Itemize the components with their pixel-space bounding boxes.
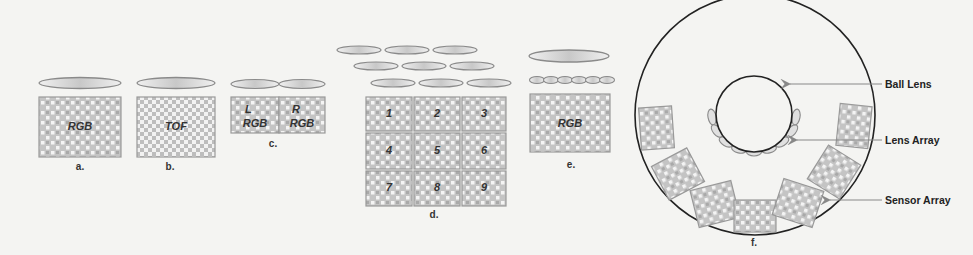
ball-lens (716, 76, 792, 152)
cell-label: 5 (434, 144, 441, 156)
microlens-icon (544, 77, 559, 84)
panel-a: RGB a. (39, 78, 121, 173)
microlens-icon (586, 77, 601, 84)
panel-caption: e. (567, 159, 576, 170)
panel-c: L RGB R RGB c. (231, 80, 325, 150)
cell-label: 4 (385, 144, 392, 156)
lens-icon (354, 62, 398, 70)
sensor-tile (772, 178, 824, 227)
left-sensor-label: RGB (243, 117, 268, 129)
cell-label: 6 (481, 144, 488, 156)
sensor-configurations-figure: RGB a. TOF b. L RGB R RGB c. (0, 0, 973, 255)
panel-f: Ball Lens Lens Array Sensor Array f. (635, 0, 951, 248)
right-sensor-label: RGB (290, 117, 315, 129)
microlens-icon (572, 77, 587, 84)
panel-caption: f. (751, 237, 757, 248)
sensor-label: RGB (558, 117, 583, 129)
sensor-label: RGB (68, 120, 93, 132)
cell-label: 8 (434, 181, 441, 193)
lens-icon (39, 78, 121, 89)
left-sensor-tag: L (245, 103, 252, 115)
lens-icon (385, 46, 429, 54)
panel-caption: c. (269, 138, 278, 149)
lens-icon (371, 79, 415, 87)
sensor-array-label: Sensor Array (885, 194, 951, 206)
right-sensor-tag: R (292, 103, 300, 115)
lens-array-label: Lens Array (885, 134, 940, 146)
main-lens-icon (529, 50, 609, 62)
microlens-icon (558, 77, 573, 84)
cell-label: 1 (386, 107, 392, 119)
panel-caption: d. (430, 209, 439, 220)
lens-icon (433, 46, 477, 54)
panel-caption: a. (76, 161, 85, 172)
sensor-tile (836, 103, 872, 148)
lens-icon (337, 46, 381, 54)
cell-label: 9 (481, 181, 488, 193)
lens-array-rows (337, 46, 511, 87)
sensor-tile (639, 106, 675, 150)
panel-caption: b. (166, 161, 175, 172)
microlens-array (530, 77, 615, 84)
sensor-tile (734, 200, 776, 232)
lens-icon (419, 79, 463, 87)
cell-label: 7 (386, 181, 393, 193)
ball-lens-label: Ball Lens (885, 78, 932, 90)
microlens-icon (600, 77, 615, 84)
panel-e: RGB e. (529, 50, 615, 170)
left-lens-icon (231, 80, 279, 89)
sensor-label: TOF (165, 120, 187, 132)
microlens-icon (530, 77, 545, 84)
lens-icon (467, 79, 511, 87)
cell-label: 2 (433, 107, 440, 119)
lens-icon (402, 62, 446, 70)
panel-d: 1 2 3 4 5 6 7 8 9 d. (337, 46, 511, 220)
lens-icon (137, 78, 215, 89)
sensor-tile (690, 180, 740, 227)
panel-b: TOF b. (137, 78, 215, 173)
right-lens-icon (279, 80, 325, 89)
cell-label: 3 (481, 107, 487, 119)
lens-icon (450, 62, 494, 70)
